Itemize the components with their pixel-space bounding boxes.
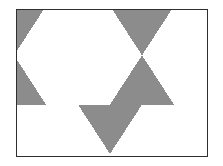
pattern-frame	[16, 9, 208, 157]
triangular-tiling-svg	[17, 10, 207, 156]
figure-root: Triangular tiling pattern Two-tone geome…	[0, 0, 223, 166]
